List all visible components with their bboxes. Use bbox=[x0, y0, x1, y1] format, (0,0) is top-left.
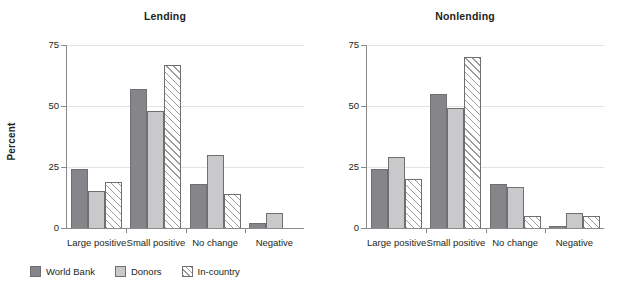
y-axis-title: Percent bbox=[2, 96, 20, 186]
x-axis-group-separator bbox=[486, 228, 487, 233]
x-category-label: Negative bbox=[256, 237, 294, 248]
bar bbox=[371, 169, 388, 228]
bar bbox=[388, 157, 405, 228]
x-category-label: Large positive bbox=[367, 237, 426, 248]
bar bbox=[105, 182, 122, 228]
x-axis-group-separator bbox=[245, 228, 246, 233]
bar bbox=[164, 65, 181, 228]
y-axis-title-label: Percent bbox=[6, 122, 17, 160]
y-tick-label: 0 bbox=[335, 222, 359, 233]
bar bbox=[207, 155, 224, 228]
y-tick-label: 0 bbox=[35, 222, 59, 233]
bar bbox=[130, 89, 147, 228]
bar bbox=[566, 213, 583, 228]
y-tick-label: 75 bbox=[335, 39, 359, 50]
y-tick-label: 50 bbox=[35, 100, 59, 111]
white-hatched-swatch bbox=[182, 266, 193, 277]
y-tick-label: 75 bbox=[35, 39, 59, 50]
bar bbox=[266, 213, 283, 228]
legend-item[interactable]: In-country bbox=[182, 266, 240, 277]
bar bbox=[147, 111, 164, 228]
x-category-label: Negative bbox=[556, 237, 594, 248]
bar-group bbox=[486, 45, 545, 228]
bar bbox=[507, 187, 524, 228]
bar-group bbox=[426, 45, 485, 228]
legend-item[interactable]: Donors bbox=[115, 266, 162, 277]
bar bbox=[549, 226, 566, 228]
bar bbox=[71, 169, 88, 228]
bar bbox=[190, 184, 207, 228]
bar bbox=[430, 94, 447, 228]
panel-lending: Lending 0255075Large positiveSmall posit… bbox=[20, 0, 310, 250]
legend-item[interactable]: World Bank bbox=[30, 266, 95, 277]
bar bbox=[405, 179, 422, 228]
legend-item-label: In-country bbox=[198, 266, 240, 277]
bar bbox=[249, 223, 266, 228]
panel-nonlending: Nonlending 0255075Large positiveSmall po… bbox=[320, 0, 610, 250]
plot-area-lending: 0255075Large positiveSmall positiveNo ch… bbox=[67, 45, 304, 228]
y-tick-label: 25 bbox=[35, 161, 59, 172]
x-category-label: No change bbox=[192, 237, 238, 248]
bar bbox=[464, 57, 481, 228]
bar-group bbox=[186, 45, 245, 228]
bar-group bbox=[67, 45, 126, 228]
bar-group bbox=[367, 45, 426, 228]
legend-item-label: World Bank bbox=[46, 266, 95, 277]
bar-group bbox=[126, 45, 185, 228]
x-category-label: Small positive bbox=[127, 237, 186, 248]
x-category-label: Small positive bbox=[427, 237, 486, 248]
bar bbox=[524, 216, 541, 228]
bar bbox=[490, 184, 507, 228]
x-axis-group-separator bbox=[186, 228, 187, 233]
x-category-label: No change bbox=[492, 237, 538, 248]
chart-legend: World BankDonorsIn-country bbox=[0, 266, 310, 277]
x-category-label: Large positive bbox=[67, 237, 126, 248]
bar bbox=[447, 108, 464, 228]
y-tick-label: 50 bbox=[335, 100, 359, 111]
bar bbox=[583, 216, 600, 228]
y-tick-label: 25 bbox=[335, 161, 359, 172]
bar bbox=[224, 194, 241, 228]
light-gray-solid-swatch bbox=[115, 266, 126, 277]
legend-item-label: Donors bbox=[131, 266, 162, 277]
dark-gray-solid-swatch bbox=[30, 266, 41, 277]
panel-title-nonlending: Nonlending bbox=[320, 10, 610, 22]
plot-area-nonlending: 0255075Large positiveSmall positiveNo ch… bbox=[367, 45, 604, 228]
figure-bar-chart-pair: Percent Lending 0255075Large positiveSma… bbox=[0, 0, 617, 298]
x-axis-group-separator bbox=[545, 228, 546, 233]
panel-title-lending: Lending bbox=[20, 10, 310, 22]
x-axis-group-separator bbox=[426, 228, 427, 233]
bar bbox=[88, 191, 105, 228]
x-axis-group-separator bbox=[126, 228, 127, 233]
bar-group bbox=[245, 45, 304, 228]
bar-group bbox=[545, 45, 604, 228]
